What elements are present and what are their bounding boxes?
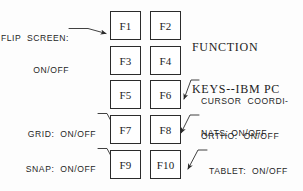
key-f2-label: F2 bbox=[159, 20, 171, 32]
key-f3-label: F3 bbox=[119, 55, 131, 67]
annotation-tablet: TABLET: ON/OFF bbox=[209, 145, 288, 191]
key-f5[interactable]: F5 bbox=[110, 80, 141, 109]
leader-line-flip-screen bbox=[69, 29, 106, 34]
key-f5-label: F5 bbox=[119, 89, 131, 101]
key-f9[interactable]: F9 bbox=[110, 150, 141, 179]
annotation-ortho-line1: ORTHO: ON/OFF bbox=[201, 131, 279, 142]
key-f8[interactable]: F8 bbox=[150, 115, 181, 144]
key-f1[interactable]: F1 bbox=[110, 11, 141, 40]
annotation-grid-line1: GRID: ON/OFF bbox=[0, 129, 96, 140]
key-f10[interactable]: F10 bbox=[150, 150, 181, 179]
annotation-flip-screen: FLIP SCREEN: ON/OFF bbox=[0, 12, 69, 96]
annotation-flip-screen-line1: FLIP SCREEN: bbox=[0, 33, 69, 44]
annotation-flip-screen-line2: ON/OFF bbox=[0, 65, 69, 76]
diagram-title-line1: FUNCTION bbox=[192, 40, 280, 54]
key-f3[interactable]: F3 bbox=[110, 46, 141, 75]
key-f6-label: F6 bbox=[159, 89, 171, 101]
key-f4[interactable]: F4 bbox=[150, 46, 181, 75]
annotation-cursor-coordinates-line1: CURSOR COORDI- bbox=[201, 96, 289, 107]
annotation-tablet-line1: TABLET: ON/OFF bbox=[209, 166, 288, 177]
key-f9-label: F9 bbox=[119, 159, 131, 171]
key-f7-label: F7 bbox=[119, 124, 131, 136]
key-f8-label: F8 bbox=[159, 124, 171, 136]
key-f10-label: F10 bbox=[157, 159, 175, 171]
key-f4-label: F4 bbox=[159, 55, 171, 67]
annotation-snap: SNAP: ON/OFF bbox=[0, 143, 96, 191]
function-keys-diagram: F1 F2 F3 F4 F5 F6 F7 F8 F9 F10 FUNCTION … bbox=[0, 0, 303, 191]
annotation-snap-line1: SNAP: ON/OFF bbox=[0, 164, 96, 175]
key-f2[interactable]: F2 bbox=[150, 11, 181, 40]
key-f7[interactable]: F7 bbox=[110, 115, 141, 144]
key-f6[interactable]: F6 bbox=[150, 80, 181, 109]
key-f1-label: F1 bbox=[119, 20, 131, 32]
